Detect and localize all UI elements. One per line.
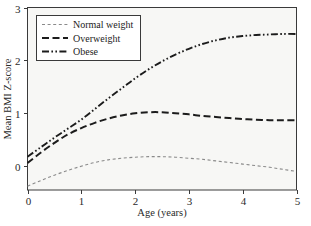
bmi-zscore-line-chart: 0123 012345 Normal weightOverweightObese…	[0, 0, 311, 226]
legend-label-overweight: Overweight	[73, 33, 120, 44]
x-axis-ticks	[29, 190, 298, 194]
x-tick-label-1: 1	[79, 195, 85, 207]
x-tick-label-3: 3	[187, 195, 193, 207]
x-tick-label-4: 4	[241, 195, 247, 207]
y-tick-label-1: 1	[15, 108, 21, 120]
y-tick-label-3: 3	[15, 3, 21, 15]
x-axis-title: Age (years)	[137, 207, 187, 219]
legend-label-normal-weight: Normal weight	[73, 19, 133, 30]
y-axis-tick-labels: 0123	[15, 3, 21, 173]
chart-root: 0123 012345 Normal weightOverweightObese…	[0, 0, 311, 226]
y-axis-title: Mean BMI Z-score	[2, 58, 13, 139]
x-axis-tick-labels: 012345	[26, 195, 301, 207]
x-tick-label-2: 2	[133, 195, 139, 207]
x-tick-label-5: 5	[295, 195, 301, 207]
y-tick-label-2: 2	[15, 55, 21, 67]
x-tick-label-0: 0	[26, 195, 32, 207]
legend-label-obese: Obese	[73, 46, 99, 57]
y-tick-label-0: 0	[15, 161, 21, 173]
y-axis-ticks	[24, 9, 28, 167]
chart-legend: Normal weightOverweightObese	[37, 16, 141, 61]
